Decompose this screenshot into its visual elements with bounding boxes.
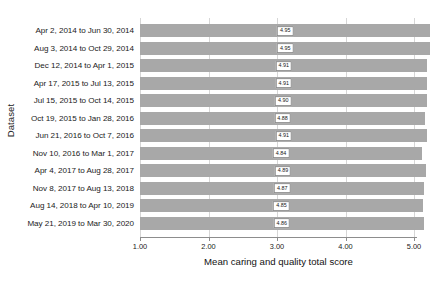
bar-row: Nov 8, 2017 to Aug 13, 20184.87 xyxy=(20,180,440,198)
bar-value-label: 4.88 xyxy=(274,113,291,123)
bar-row-label: Jul 15, 2015 to Oct 14, 2015 xyxy=(20,96,140,105)
bar-row-label: May 21, 2019 to Mar 30, 2020 xyxy=(20,219,140,228)
bar-row-label: Jun 21, 2016 to Oct 7, 2016 xyxy=(20,131,140,140)
bar-row-label: Apr 4, 2017 to Aug 28, 2017 xyxy=(20,166,140,175)
bar-row-label: Aug 14, 2018 to Apr 10, 2019 xyxy=(20,201,140,210)
bar-row-label: Apr 2, 2014 to Jun 30, 2014 xyxy=(20,26,140,35)
bar-row: Apr 4, 2017 to Aug 28, 20174.89 xyxy=(20,162,440,180)
x-tick-label: 4.00 xyxy=(338,242,352,251)
bar-value-label: 4.90 xyxy=(275,96,292,106)
bar-row-label: Nov 8, 2017 to Aug 13, 2018 xyxy=(20,184,140,193)
y-axis-title: Dataset xyxy=(2,0,20,240)
bar-track: 4.84 xyxy=(140,145,434,163)
bar-track: 4.87 xyxy=(140,180,434,198)
y-axis-title-label: Dataset xyxy=(6,103,17,136)
bar-value-label: 4.86 xyxy=(274,218,291,228)
x-tick-mark xyxy=(140,237,141,241)
bar-row: Jul 15, 2015 to Oct 14, 20154.90 xyxy=(20,92,440,110)
bar-chart: Dataset Apr 2, 2014 to Jun 30, 20144.95A… xyxy=(0,0,444,282)
bar-track: 4.91 xyxy=(140,75,434,93)
bar-row: Apr 2, 2014 to Jun 30, 20144.95 xyxy=(20,22,440,40)
bar-row: Jun 21, 2016 to Oct 7, 20164.91 xyxy=(20,127,440,145)
x-tick-mark xyxy=(209,237,210,241)
bar-track: 4.89 xyxy=(140,162,434,180)
bar-track: 4.85 xyxy=(140,197,434,215)
bar-track: 4.95 xyxy=(140,40,434,58)
x-tick-mark xyxy=(346,237,347,241)
bar-row-label: Nov 10, 2016 to Mar 1, 2017 xyxy=(20,149,140,158)
bar-row-label: Oct 19, 2015 to Jan 28, 2016 xyxy=(20,114,140,123)
bar-row: Apr 17, 2015 to Jul 13, 20154.91 xyxy=(20,75,440,93)
x-tick-label: 5.00 xyxy=(407,242,421,251)
x-tick-label: 2.00 xyxy=(201,242,215,251)
bar-track: 4.95 xyxy=(140,22,434,40)
bar-value-label: 4.95 xyxy=(277,43,294,53)
bar-value-label: 4.89 xyxy=(275,166,292,176)
bar-row: May 21, 2019 to Mar 30, 20204.86 xyxy=(20,215,440,233)
bar-row: Nov 10, 2016 to Mar 1, 20174.84 xyxy=(20,145,440,163)
bar-row-label: Dec 12, 2014 to Apr 1, 2015 xyxy=(20,61,140,70)
bar-row: Aug 14, 2018 to Apr 10, 20194.85 xyxy=(20,197,440,215)
x-axis-title: Mean caring and quality total score xyxy=(140,256,417,267)
bar-track: 4.88 xyxy=(140,110,434,128)
bar-row-label: Apr 17, 2015 to Jul 13, 2015 xyxy=(20,79,140,88)
bar-value-label: 4.85 xyxy=(273,201,290,211)
bar-value-label: 4.91 xyxy=(275,61,292,71)
bar-rows: Apr 2, 2014 to Jun 30, 20144.95Aug 3, 20… xyxy=(20,22,440,232)
bar-track: 4.91 xyxy=(140,127,434,145)
bar-track: 4.86 xyxy=(140,215,434,233)
bar-value-label: 4.87 xyxy=(274,183,291,193)
bar-row: Aug 3, 2014 to Oct 29, 20144.95 xyxy=(20,40,440,58)
x-tick-mark xyxy=(414,237,415,241)
bar-row-label: Aug 3, 2014 to Oct 29, 2014 xyxy=(20,44,140,53)
bar-track: 4.90 xyxy=(140,92,434,110)
x-tick-mark xyxy=(277,237,278,241)
x-tick-label: 1.00 xyxy=(133,242,147,251)
bar-value-label: 4.95 xyxy=(277,26,294,36)
bar-value-label: 4.91 xyxy=(275,78,292,88)
bar-row: Dec 12, 2014 to Apr 1, 20154.91 xyxy=(20,57,440,75)
bar-value-label: 4.91 xyxy=(275,131,292,141)
x-axis-line xyxy=(140,237,417,238)
bar-value-label: 4.84 xyxy=(273,148,290,158)
bar-row: Oct 19, 2015 to Jan 28, 20164.88 xyxy=(20,110,440,128)
bar-track: 4.91 xyxy=(140,57,434,75)
x-tick-label: 3.00 xyxy=(270,242,284,251)
